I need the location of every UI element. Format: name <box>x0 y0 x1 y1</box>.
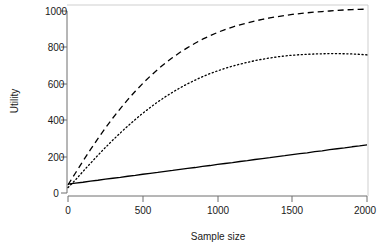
x-tick-label: 1000 <box>207 205 230 216</box>
x-tick-label-group: 0 500 1000 1500 2000 <box>65 205 376 216</box>
y-tick-group <box>61 11 67 193</box>
x-tick-group <box>68 196 367 202</box>
data-series-layer <box>68 9 367 187</box>
series-solid-line <box>68 145 367 184</box>
y-tick-label-group: 0 200 400 600 800 1000 <box>45 6 68 199</box>
y-axis-title: Utility <box>9 89 20 113</box>
y-tick-label: 400 <box>48 115 65 126</box>
x-tick-label: 2000 <box>354 205 377 216</box>
x-tick-label: 1500 <box>281 205 304 216</box>
series-dashed-line <box>68 9 367 185</box>
chart-container: 0 200 400 600 800 1000 0 500 1000 1500 2… <box>0 0 380 250</box>
y-tick-label: 200 <box>48 152 65 163</box>
x-tick-label: 500 <box>135 205 152 216</box>
y-tick-label: 1000 <box>45 6 68 17</box>
y-tick-label: 600 <box>48 79 65 90</box>
series-dotted-line <box>68 54 367 188</box>
chart-plot-svg: 0 200 400 600 800 1000 0 500 1000 1500 2… <box>0 0 380 250</box>
y-tick-label: 800 <box>48 42 65 53</box>
x-tick-label: 0 <box>65 205 71 216</box>
x-axis-title: Sample size <box>191 231 246 242</box>
y-tick-label: 0 <box>53 188 59 199</box>
